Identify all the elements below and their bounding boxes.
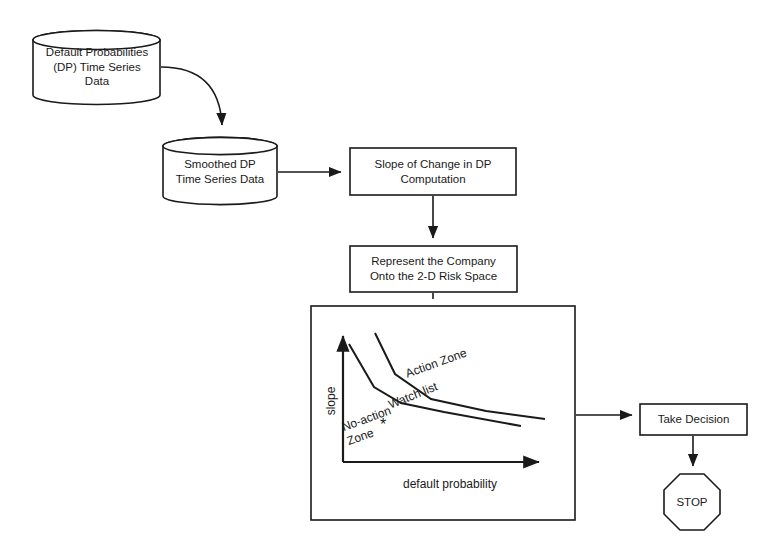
diagram-canvas: Default Probabilities (DP) Time Series D… xyxy=(0,0,784,559)
node-source-database xyxy=(33,31,160,105)
flowchart-svg xyxy=(0,0,784,559)
node-slope-computation-box xyxy=(350,148,516,195)
node-stop-octagon xyxy=(664,474,720,530)
node-take-decision-box xyxy=(640,404,747,435)
node-smoothed-database xyxy=(163,137,277,204)
chart-company-marker-icon: * xyxy=(380,420,386,430)
node-represent-company-box xyxy=(350,246,517,292)
connector-source-to-smoothed xyxy=(161,67,222,125)
node-risk-space-box xyxy=(311,306,575,520)
